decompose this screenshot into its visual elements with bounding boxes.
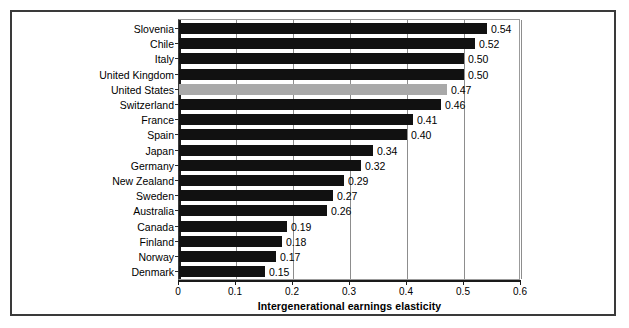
figure-frame: Slovenia0.54Chile0.52Italy0.50United Kin…	[10, 10, 616, 316]
x-tick-mark	[178, 280, 179, 285]
category-label: Norway	[138, 250, 174, 264]
value-label: 0.50	[468, 52, 488, 66]
bar	[179, 23, 487, 34]
category-label: Japan	[145, 144, 174, 158]
value-label: 0.29	[348, 174, 368, 188]
category-label: United Kingdom	[99, 68, 174, 82]
x-tick-label: 0.5	[443, 286, 483, 298]
x-tick-label: 0.1	[215, 286, 255, 298]
category-label: New Zealand	[112, 174, 174, 188]
x-tick-mark	[349, 280, 350, 285]
value-label: 0.52	[479, 37, 499, 51]
bar	[179, 129, 407, 140]
x-tick-mark	[292, 280, 293, 285]
value-label: 0.32	[365, 159, 385, 173]
bar-row: Norway0.17	[179, 249, 519, 265]
category-label: Italy	[155, 52, 174, 66]
value-label: 0.17	[280, 250, 300, 264]
category-label: United States	[111, 83, 174, 97]
bar-row: United Kingdom0.50	[179, 67, 519, 83]
bar	[179, 205, 327, 216]
value-label: 0.47	[451, 83, 471, 97]
x-tick-label: 0.2	[272, 286, 312, 298]
plot-area: Slovenia0.54Chile0.52Italy0.50United Kin…	[178, 19, 520, 280]
bar	[179, 160, 361, 171]
bar	[179, 145, 373, 156]
x-tick-label: 0.3	[329, 286, 369, 298]
bar-chart: Slovenia0.54Chile0.52Italy0.50United Kin…	[12, 12, 618, 318]
bar	[179, 221, 287, 232]
bar-row: United States0.47	[179, 82, 519, 98]
bar-row: Australia0.26	[179, 203, 519, 219]
category-label: Denmark	[131, 265, 174, 279]
bar	[179, 266, 265, 277]
value-label: 0.27	[337, 189, 357, 203]
value-label: 0.34	[377, 144, 397, 158]
bar-row: Sweden0.27	[179, 188, 519, 204]
value-label: 0.18	[286, 235, 306, 249]
value-label: 0.50	[468, 68, 488, 82]
value-label: 0.54	[491, 22, 511, 36]
category-label: France	[141, 113, 174, 127]
bar-row: Germany0.32	[179, 158, 519, 174]
bar	[179, 99, 441, 110]
bar-row: Chile0.52	[179, 36, 519, 52]
bar	[179, 84, 447, 95]
bar	[179, 69, 464, 80]
category-label: Finland	[140, 235, 174, 249]
bar	[179, 236, 282, 247]
x-tick-label: 0	[158, 286, 198, 298]
bar	[179, 175, 344, 186]
category-label: Slovenia	[134, 22, 174, 36]
category-label: Germany	[131, 159, 174, 173]
category-label: Spain	[147, 128, 174, 142]
gridline	[521, 20, 522, 279]
bar	[179, 38, 475, 49]
category-label: Canada	[137, 220, 174, 234]
bar-row: Canada0.19	[179, 219, 519, 235]
bar	[179, 53, 464, 64]
value-label: 0.46	[445, 98, 465, 112]
bar-row: Spain0.40	[179, 127, 519, 143]
x-tick-mark	[520, 280, 521, 285]
x-tick-label: 0.4	[386, 286, 426, 298]
bar-row: New Zealand0.29	[179, 173, 519, 189]
bar-row: Japan0.34	[179, 143, 519, 159]
bar	[179, 251, 276, 262]
bar-row: Denmark0.15	[179, 264, 519, 280]
value-label: 0.41	[417, 113, 437, 127]
x-tick-mark	[463, 280, 464, 285]
bar-row: France0.41	[179, 112, 519, 128]
bar-row: Italy0.50	[179, 51, 519, 67]
x-tick-mark	[235, 280, 236, 285]
x-tick-label: 0.6	[500, 286, 540, 298]
bar	[179, 114, 413, 125]
bar	[179, 190, 333, 201]
category-label: Sweden	[136, 189, 174, 203]
value-label: 0.19	[291, 220, 311, 234]
value-label: 0.26	[331, 204, 351, 218]
x-tick-mark	[406, 280, 407, 285]
value-label: 0.40	[411, 128, 431, 142]
category-label: Chile	[150, 37, 174, 51]
category-label: Switzerland	[120, 98, 174, 112]
x-axis-title: Intergenerational earnings elasticity	[178, 300, 521, 312]
category-label: Australia	[133, 204, 174, 218]
bar-row: Switzerland0.46	[179, 97, 519, 113]
bar-row: Slovenia0.54	[179, 21, 519, 37]
bar-row: Finland0.18	[179, 234, 519, 250]
value-label: 0.15	[269, 265, 289, 279]
